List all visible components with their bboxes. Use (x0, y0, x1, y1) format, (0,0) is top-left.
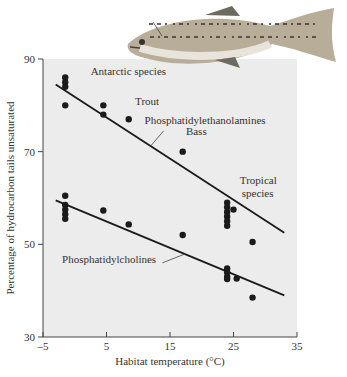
fish-spot (181, 23, 183, 25)
fish-spot (254, 36, 256, 38)
fish-spot (312, 36, 314, 38)
x-tick-label: 25 (228, 340, 240, 352)
fish-spot (201, 23, 203, 25)
trout-illustration (128, 6, 336, 68)
fish-spot (290, 36, 292, 38)
fish-spot (276, 36, 278, 38)
x-tick-label: 5 (104, 340, 110, 352)
fish-spot (314, 36, 316, 38)
fish-spot (247, 23, 249, 25)
data-point (100, 111, 106, 117)
x-tick-label: 35 (292, 340, 304, 352)
fish-spot (292, 36, 294, 38)
fish-spot (174, 36, 176, 38)
fish-spot (195, 23, 197, 25)
fish-spot (246, 36, 248, 38)
fish-spot (224, 36, 226, 38)
fish-spot (203, 23, 205, 25)
data-point (100, 102, 106, 108)
fish-spot (188, 36, 190, 38)
fish-spot (283, 23, 285, 25)
fish-spot (284, 36, 286, 38)
fish-spot (268, 36, 270, 38)
fish-spot (149, 23, 151, 25)
fish-spot (225, 23, 227, 25)
fish-spot (166, 36, 168, 38)
fish-spot (239, 23, 241, 25)
data-point (180, 148, 186, 154)
fish-spot (150, 36, 152, 38)
x-axis-title: Habitat temperature (°C) (115, 355, 225, 368)
fish-spot (172, 36, 174, 38)
fish-spot (187, 23, 189, 25)
fish-spot (159, 23, 161, 25)
fish-spot (275, 23, 277, 25)
annotation-label: Bass (186, 125, 207, 137)
fish-spot (262, 36, 264, 38)
y-tick-label: 90 (24, 53, 36, 65)
fish-spot (238, 36, 240, 38)
fish-spot (285, 23, 287, 25)
fish-spot (194, 36, 196, 38)
fish-spot (186, 36, 188, 38)
data-point (224, 223, 230, 229)
y-tick-label: 50 (24, 238, 36, 250)
fish-spot (298, 36, 300, 38)
fish-spot (157, 23, 159, 25)
data-point (126, 221, 132, 227)
data-point (233, 275, 239, 281)
data-point (249, 239, 255, 245)
fish-spot (165, 23, 167, 25)
fish-spot (216, 36, 218, 38)
fish-spot (248, 36, 250, 38)
fish-spot (209, 23, 211, 25)
fish-spot (202, 36, 204, 38)
fish-spot (240, 36, 242, 38)
fish-spot (196, 36, 198, 38)
fish-spot (313, 23, 315, 25)
fish-spot (173, 23, 175, 25)
fish-spot (253, 23, 255, 25)
fish-spot (231, 23, 233, 25)
fish-spot (306, 36, 308, 38)
data-point (62, 216, 68, 222)
annotation-label: Antarctic species (91, 65, 166, 77)
fish-spot (211, 23, 213, 25)
fish-spot (152, 36, 154, 38)
annotation-label: Phosphatidylcholines (62, 253, 156, 265)
y-tick-label: 70 (24, 146, 36, 158)
fish-spot (233, 23, 235, 25)
fish-spot (260, 36, 262, 38)
data-point (62, 84, 68, 90)
fish-spot (291, 23, 293, 25)
fish-spot (217, 23, 219, 25)
fish-spot (299, 23, 301, 25)
fish-spot (305, 23, 307, 25)
fish-spot (210, 36, 212, 38)
data-point (249, 294, 255, 300)
fish-spot (261, 23, 263, 25)
y-tick-label: 30 (24, 331, 36, 343)
annotation-label: Tropical (240, 174, 277, 186)
fish-spot (297, 23, 299, 25)
fish-spot (151, 23, 153, 25)
fish-spot (180, 36, 182, 38)
fish-spot (269, 23, 271, 25)
data-point (180, 232, 186, 238)
fish-spot (270, 36, 272, 38)
fish-spot (218, 36, 220, 38)
chart: –5515253530507090Habitat temperature (°C… (0, 0, 347, 377)
annotation-label: species (242, 187, 274, 199)
annotation-label: Phosphatidylethanolamines (145, 114, 266, 126)
data-point (126, 116, 132, 122)
fish-spot (158, 36, 160, 38)
data-point (62, 102, 68, 108)
x-tick-label: –5 (37, 340, 50, 352)
data-point (230, 206, 236, 212)
fish-spot (164, 36, 166, 38)
fish-spot (307, 23, 309, 25)
annotation-label: Trout (135, 95, 159, 107)
x-tick-label: 15 (165, 340, 177, 352)
fish-spot (255, 23, 257, 25)
data-point (62, 192, 68, 198)
